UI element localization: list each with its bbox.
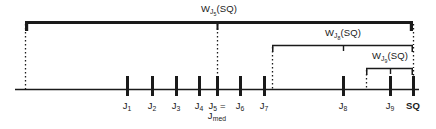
axis-tick-label-J3: J3: [172, 101, 181, 111]
axis-tick-label-J9: J9: [386, 101, 395, 111]
bracket-label-j5: WJ5(SQ): [201, 4, 237, 14]
axis-tick-label-SQ: SQ: [406, 101, 420, 111]
axis-tick-label-J7: J7: [260, 101, 269, 111]
bracket-J9: [366, 68, 413, 75]
bracket-label-j9: WJ9(SQ): [372, 51, 408, 61]
axis-tick-label-J1: J1: [123, 101, 132, 111]
axis-tick-label-J4: J4: [195, 101, 204, 111]
axis-tick-label-J6: J6: [236, 101, 245, 111]
weight-interval-number-line-figure: WJ5(SQ) WJ8(SQ) WJ9(SQ) J1J2J3J4J5 =Jmed…: [0, 0, 436, 129]
axis-tick-label-J8: J8: [339, 101, 348, 111]
axis-tick-label-J2: J2: [148, 101, 157, 111]
axis-tick-label-J5: J5 =Jmed: [208, 101, 226, 121]
bracket-label-j8: WJ8(SQ): [325, 28, 361, 38]
